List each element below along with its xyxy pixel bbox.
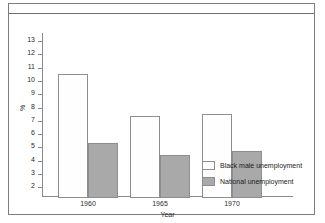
y-axis-tick-label: 7	[31, 116, 35, 124]
y-axis-line	[42, 33, 43, 196]
bar	[130, 116, 160, 198]
y-axis-tick: 7	[38, 121, 43, 122]
bar	[160, 155, 190, 198]
bar	[58, 74, 88, 198]
legend-label: National unemployment	[220, 178, 294, 186]
y-axis-tick: 3	[38, 174, 43, 175]
y-axis-tick: 11	[38, 68, 43, 69]
y-axis-tick: 5	[38, 147, 43, 148]
y-axis-tick-label: 2	[31, 182, 35, 190]
chart-plot-area: % 1312111098765432 196019651970 Year Bla…	[9, 15, 314, 215]
y-axis-tick-label: 9	[31, 89, 35, 97]
y-axis-tick: 2	[38, 187, 43, 188]
legend-item: National unemployment	[202, 175, 302, 188]
legend-swatch-national-unemployment	[202, 177, 215, 186]
x-axis-tick-label: 1970	[202, 200, 262, 208]
y-axis-tick-label: 10	[27, 76, 35, 84]
y-axis-tick-label: 12	[27, 49, 35, 57]
y-axis-tick: 9	[38, 94, 43, 95]
bar	[88, 143, 118, 198]
y-axis-tick: 12	[38, 54, 43, 55]
figure-caption-strip	[9, 4, 314, 14]
y-axis-tick-label: 4	[31, 156, 35, 164]
x-axis-tick-label: 1960	[58, 200, 118, 208]
bar-group	[130, 35, 190, 198]
y-axis-tick-label: 3	[31, 169, 35, 177]
y-axis-tick-label: 5	[31, 142, 35, 150]
y-axis-tick-label: 8	[31, 103, 35, 111]
y-axis-tick: 10	[38, 81, 43, 82]
x-axis-title: Year	[42, 211, 293, 218]
y-axis-tick: 8	[38, 108, 43, 109]
y-axis-tick-label: 11	[28, 63, 35, 71]
x-axis-tick-label: 1965	[130, 200, 190, 208]
figure-panel: % 1312111098765432 196019651970 Year Bla…	[8, 3, 315, 215]
y-axis-title: %	[19, 105, 26, 111]
bar-group	[58, 35, 118, 198]
y-axis-tick: 4	[38, 161, 43, 162]
legend-label: Black male unemployment	[220, 162, 302, 170]
y-axis-tick-label: 6	[31, 129, 35, 137]
legend-swatch-black-male-unemployment	[202, 161, 215, 170]
y-axis-tick: 13	[38, 41, 43, 42]
y-axis-tick: 6	[38, 134, 43, 135]
legend-item: Black male unemployment	[202, 159, 302, 172]
chart-legend: Black male unemployment National unemplo…	[202, 159, 302, 191]
y-axis-tick-label: 13	[27, 36, 35, 44]
